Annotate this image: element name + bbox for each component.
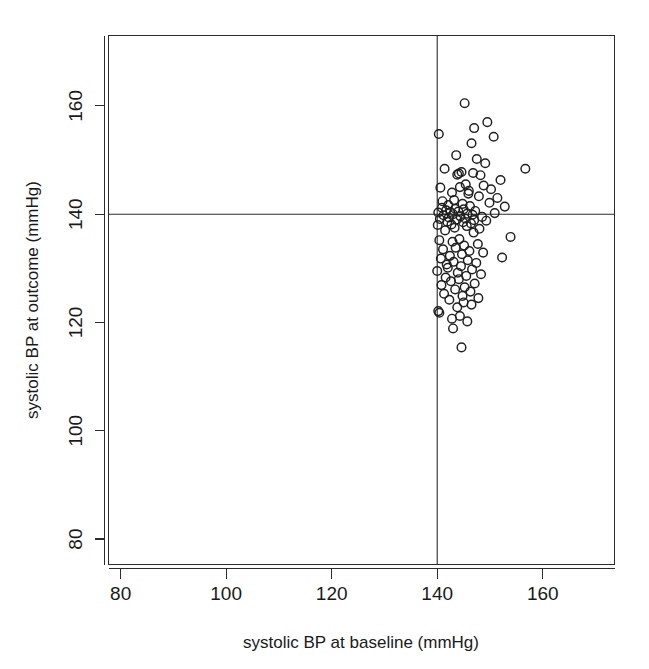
x-tick-label: 120 [316,583,348,604]
y-tick-label: 80 [65,528,86,549]
plot-canvas: 80100120140160 80100120140160 systolic B… [0,0,649,669]
x-tick-label: 160 [527,583,559,604]
x-tick-label: 80 [110,583,131,604]
x-tick-label: 140 [421,583,453,604]
y-tick-label: 160 [65,90,86,122]
y-tick-label: 100 [65,415,86,447]
x-tick-label: 100 [210,583,242,604]
scatter-plot-figure: 80100120140160 80100120140160 systolic B… [0,0,649,669]
y-axis-title: systolic BP at outcome (mmHg) [23,181,42,419]
x-axis-title: systolic BP at baseline (mmHg) [243,633,479,652]
y-tick-label: 120 [65,307,86,339]
y-tick-label: 140 [65,198,86,230]
